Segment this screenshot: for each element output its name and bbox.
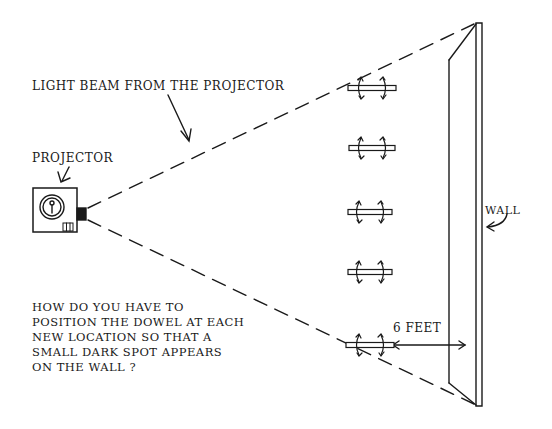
projector-label: PROJECTOR xyxy=(32,152,113,164)
distance-label: 6 FEET xyxy=(393,322,441,334)
wall-label: WALL xyxy=(485,205,520,216)
question-line: ON THE WALL ? xyxy=(32,360,312,375)
distance-arrow xyxy=(393,341,465,349)
beam-label-pointer xyxy=(168,95,189,140)
question-text: HOW DO YOU HAVE TO POSITION THE DOWEL AT… xyxy=(32,300,312,375)
beam-top-edge xyxy=(88,24,474,208)
question-line: HOW DO YOU HAVE TO xyxy=(32,300,312,315)
dowels xyxy=(346,77,396,356)
question-line: NEW LOCATION SO THAT A xyxy=(32,330,312,345)
dowel-3 xyxy=(348,201,392,223)
diagram-canvas: LIGHT BEAM FROM THE PROJECTOR PROJECTOR … xyxy=(0,0,552,429)
light-beam-label: LIGHT BEAM FROM THE PROJECTOR xyxy=(32,80,284,92)
wall xyxy=(449,23,482,406)
projector-icon xyxy=(33,188,86,232)
dowel-5 xyxy=(346,334,394,356)
question-line: POSITION THE DOWEL AT EACH xyxy=(32,315,312,330)
dowel-1 xyxy=(348,77,396,99)
dowel-4 xyxy=(348,261,392,283)
question-line: SMALL DARK SPOT APPEARS xyxy=(32,345,312,360)
dowel-2 xyxy=(349,137,395,159)
